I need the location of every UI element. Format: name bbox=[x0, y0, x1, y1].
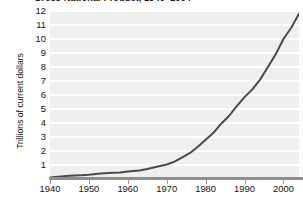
x-tick-label: 1990 bbox=[225, 184, 265, 194]
y-axis-tick-labels: 123456789101112 bbox=[28, 11, 46, 179]
plot-area bbox=[50, 11, 299, 179]
plot-svg bbox=[50, 11, 299, 179]
y-tick-label: 11 bbox=[30, 20, 46, 29]
gnp-line-chart-figure: Gross National Product, 1940–2004 Trilli… bbox=[0, 0, 303, 200]
y-tick-label: 10 bbox=[30, 34, 46, 43]
y-tick-label: 1 bbox=[30, 160, 46, 169]
y-tick-label: 4 bbox=[30, 118, 46, 127]
y-tick-label: 8 bbox=[30, 62, 46, 71]
y-tick-label: 12 bbox=[30, 6, 46, 15]
y-tick-label: 6 bbox=[30, 90, 46, 99]
x-tick-label: 1970 bbox=[147, 184, 187, 194]
y-tick-label: 5 bbox=[30, 104, 46, 113]
x-tick-label: 1950 bbox=[69, 184, 109, 194]
x-axis-tick-labels: 1940195019601970198019902000 bbox=[50, 184, 299, 198]
y-tick-label: 9 bbox=[30, 48, 46, 57]
y-tick-label: 7 bbox=[30, 76, 46, 85]
x-tick-label: 1960 bbox=[108, 184, 148, 194]
x-tick-label: 1940 bbox=[30, 184, 70, 194]
x-tick-label: 2000 bbox=[263, 184, 303, 194]
y-tick-label: 2 bbox=[30, 146, 46, 155]
chart-title: Gross National Product, 1940–2004 bbox=[34, 0, 294, 4]
y-axis-title: Trillions of current dollars bbox=[15, 26, 25, 176]
x-axis-line bbox=[49, 177, 303, 180]
x-tick-label: 1980 bbox=[186, 184, 226, 194]
gridlines bbox=[50, 11, 299, 165]
y-tick-label: 3 bbox=[30, 132, 46, 141]
